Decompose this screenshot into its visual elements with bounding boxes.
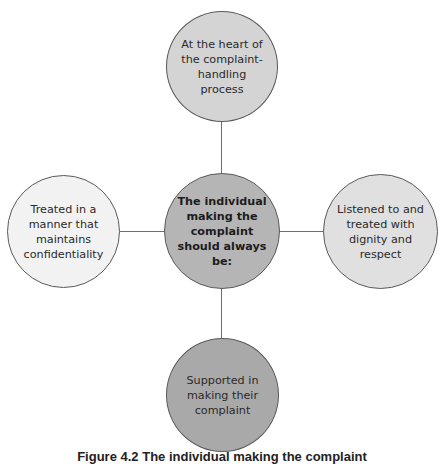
connector-right xyxy=(278,231,324,232)
node-left-label: Treated in a manner that maintains confi… xyxy=(8,202,119,262)
node-bottom-label: Supported in making their complaint xyxy=(167,373,278,418)
figure-caption: Figure 4.2 The individual making the com… xyxy=(0,449,444,464)
node-right-dignity-respect: Listened to and treated with dignity and… xyxy=(323,174,438,289)
node-left-confidentiality: Treated in a manner that maintains confi… xyxy=(7,175,120,288)
connector-bottom xyxy=(221,288,222,338)
node-top-label: At the heart of the complaint-handling p… xyxy=(167,37,277,97)
node-center-individual: The individual making the complaint shou… xyxy=(164,173,280,289)
node-right-label: Listened to and treated with dignity and… xyxy=(324,202,437,262)
connector-left xyxy=(119,231,165,232)
node-top-heart-of-process: At the heart of the complaint-handling p… xyxy=(166,11,278,122)
node-bottom-supported: Supported in making their complaint xyxy=(166,338,279,452)
connector-top xyxy=(221,121,222,174)
node-center-label: The individual making the complaint shou… xyxy=(165,194,279,269)
